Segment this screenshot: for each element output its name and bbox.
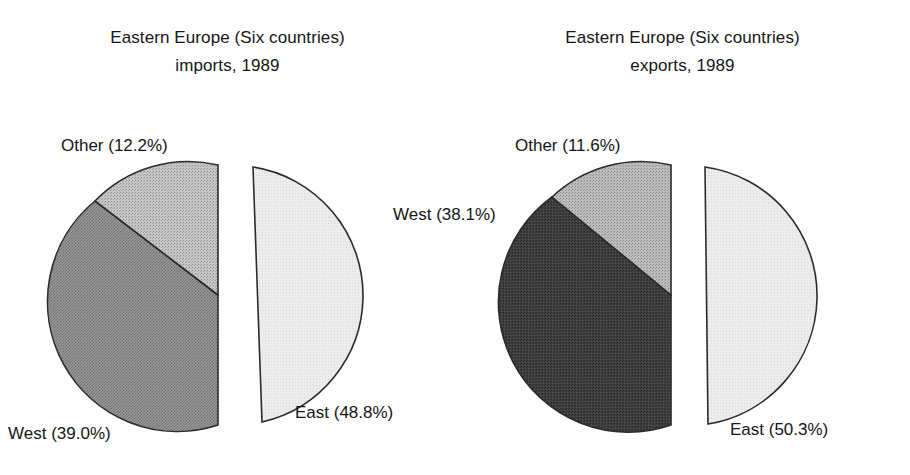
slice-east [253, 167, 363, 422]
pie-chart-exports: Eastern Europe (Six countries) exports, … [455, 0, 910, 475]
label-east-imports: East (48.8%) [295, 403, 393, 423]
label-other-exports: Other (11.6%) [515, 136, 621, 156]
figure-canvas: Eastern Europe (Six countries) imports, … [0, 0, 910, 475]
label-other-imports: Other (12.2%) [61, 136, 168, 156]
exports-pie-graphic [455, 0, 910, 475]
pie-chart-imports: Eastern Europe (Six countries) imports, … [0, 0, 455, 475]
slice-east [705, 167, 817, 424]
label-west-exports: West (38.1%) [393, 205, 496, 225]
label-west-imports: West (39.0%) [8, 424, 111, 444]
label-east-exports: East (50.3%) [730, 420, 828, 440]
